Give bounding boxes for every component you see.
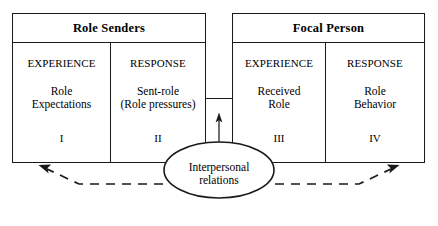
diagram-canvas: Role Senders Focal Person EXPERIENCE Rol… — [0, 0, 438, 226]
feedback-arrow-left-head — [39, 164, 52, 173]
feedback-arrow-right-path — [275, 169, 391, 184]
feedback-arrows-layer — [0, 0, 438, 226]
feedback-arrow-left-path — [47, 169, 163, 184]
feedback-arrow-right-head — [387, 164, 400, 173]
